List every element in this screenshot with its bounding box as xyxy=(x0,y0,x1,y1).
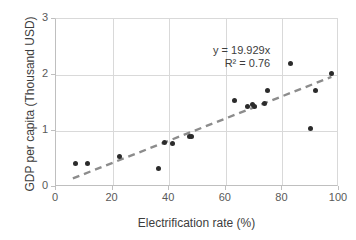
data-point xyxy=(308,126,313,131)
data-point xyxy=(170,141,175,146)
data-point xyxy=(329,71,334,76)
data-point xyxy=(252,104,257,109)
x-tick-label-80: 80 xyxy=(266,191,296,203)
data-point xyxy=(265,88,270,93)
equation-text: y = 19.929x xyxy=(213,44,270,57)
y-tick-label-3: 3 xyxy=(22,11,48,23)
r-squared-text: R² = 0.76 xyxy=(213,57,270,70)
data-point xyxy=(189,134,194,139)
x-tick-label-20: 20 xyxy=(97,191,127,203)
x-tick-mark-0 xyxy=(55,186,56,190)
data-point xyxy=(73,161,78,166)
y-tick-label-2: 2 xyxy=(22,67,48,79)
x-tick-mark-60 xyxy=(225,186,226,190)
data-point xyxy=(117,154,122,159)
y-axis-title: GDP per capita (Thousand USD) xyxy=(23,4,37,204)
x-tick-label-100: 100 xyxy=(323,191,353,203)
trendline-equation-annotation: y = 19.929x R² = 0.76 xyxy=(213,44,270,70)
x-tick-mark-100 xyxy=(338,186,339,190)
x-tick-label-40: 40 xyxy=(153,191,183,203)
y-tick-label-1: 1 xyxy=(22,123,48,135)
trendline xyxy=(56,19,337,185)
x-tick-label-60: 60 xyxy=(210,191,240,203)
x-tick-mark-40 xyxy=(168,186,169,190)
data-point xyxy=(162,140,167,145)
scatter-chart-figure: GDP per capita (Thousand USD) 3 2 1 0 0 … xyxy=(0,0,356,240)
x-tick-mark-20 xyxy=(112,186,113,190)
x-tick-label-0: 0 xyxy=(40,191,70,203)
x-tick-mark-80 xyxy=(281,186,282,190)
plot-area xyxy=(55,18,338,186)
x-axis-title: Electrification rate (%) xyxy=(55,216,338,230)
y-tick-label-0: 0 xyxy=(22,179,48,191)
data-point xyxy=(156,166,161,171)
